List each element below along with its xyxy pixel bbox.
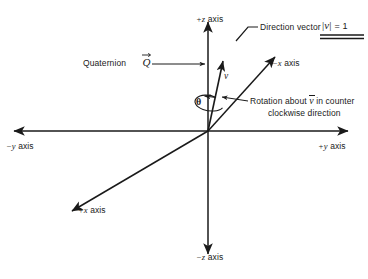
vector-label-v: v	[224, 71, 228, 83]
rotation-vector-symbol: v	[309, 95, 314, 108]
angle-label-theta: θ	[196, 96, 201, 109]
quaternion-rotation-diagram: +z axis −z axis −y axis +y axis −x axis …	[0, 0, 368, 279]
axis-label-minus-x: −x axis	[272, 58, 300, 69]
rotation-description: Rotation about v in counter clockwise di…	[250, 95, 355, 118]
magnitude-equals: = 1	[334, 21, 347, 31]
axis-label-plus-y: +y axis	[318, 141, 346, 152]
quaternion-symbol-text: Q	[143, 56, 151, 68]
magnitude-double-underline	[320, 35, 364, 39]
rotation-text-line2: clockwise direction	[250, 108, 355, 119]
axis-label-minus-z: −z axis	[196, 252, 223, 263]
rotation-vector-symbol-text: v	[309, 95, 314, 106]
overline-accent	[309, 95, 315, 96]
axis-label-plus-z: +z axis	[196, 14, 223, 25]
rotation-text-prefix: Rotation about	[250, 96, 307, 106]
quaternion-symbol: Q	[143, 56, 151, 70]
diagram-canvas	[0, 0, 368, 279]
vector-arrow-accent	[142, 53, 151, 57]
direction-vector-label: Direction vector	[260, 22, 321, 33]
axis-label-minus-y: −y axis	[6, 141, 34, 152]
quaternion-label: Quaternion Q	[83, 56, 151, 70]
x-axis-negative	[208, 57, 275, 131]
direction-vector-leader-line	[236, 27, 258, 41]
quaternion-label-text: Quaternion	[83, 58, 126, 68]
axis-label-plus-x: +x axis	[78, 205, 106, 216]
x-axis-positive	[72, 131, 208, 211]
rotation-text-suffix: in counter	[316, 96, 354, 106]
magnitude-bar-right: |	[329, 19, 331, 31]
x-axis	[72, 57, 275, 211]
magnitude-expression: |v| = 1	[322, 19, 348, 33]
